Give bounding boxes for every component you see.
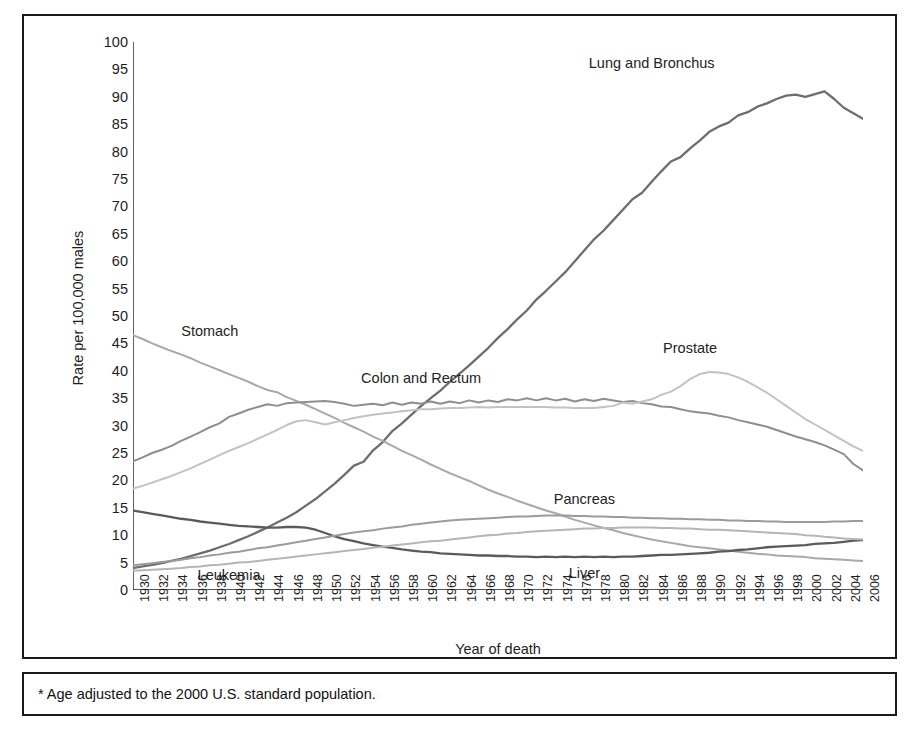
x-tick-label: 1968 bbox=[503, 574, 517, 602]
x-tick-label: 2000 bbox=[810, 574, 824, 602]
y-axis-tick-labels: 1009590858075706560555045403530252015105… bbox=[88, 42, 128, 590]
x-tick-label: 1980 bbox=[618, 574, 632, 602]
series-label-stomach: Stomach bbox=[181, 323, 238, 339]
x-tick-label: 1996 bbox=[772, 574, 786, 602]
y-tick-label: 70 bbox=[88, 198, 128, 214]
series-line-lung-and-bronchus bbox=[133, 91, 863, 568]
x-tick-label: 2006 bbox=[868, 574, 882, 602]
x-tick-label: 1940 bbox=[234, 574, 248, 602]
x-tick-label: 1944 bbox=[272, 574, 286, 602]
x-tick-label: 1956 bbox=[388, 574, 402, 602]
x-tick-label: 1976 bbox=[580, 574, 594, 602]
y-tick-label: 15 bbox=[88, 500, 128, 516]
y-axis-title: Rate per 100,000 males bbox=[70, 118, 86, 498]
y-tick-label: 95 bbox=[88, 61, 128, 77]
y-tick-label: 80 bbox=[88, 144, 128, 160]
footnote-frame: * Age adjusted to the 2000 U.S. standard… bbox=[22, 672, 897, 716]
y-tick-label: 60 bbox=[88, 253, 128, 269]
y-tick-label: 65 bbox=[88, 226, 128, 242]
x-tick-label: 1930 bbox=[138, 574, 152, 602]
y-tick-label: 45 bbox=[88, 335, 128, 351]
x-tick-label: 1974 bbox=[561, 574, 575, 602]
x-tick-label: 1988 bbox=[695, 574, 709, 602]
x-tick-label: 1984 bbox=[657, 574, 671, 602]
footnote-text: * Age adjusted to the 2000 U.S. standard… bbox=[38, 686, 376, 702]
x-tick-label: 1942 bbox=[253, 574, 267, 602]
axis-lines bbox=[133, 42, 863, 590]
x-tick-label: 1990 bbox=[714, 574, 728, 602]
x-tick-label: 1958 bbox=[407, 574, 421, 602]
y-tick-label: 75 bbox=[88, 171, 128, 187]
y-tick-label: 25 bbox=[88, 445, 128, 461]
series-line-colon-and-rectum bbox=[133, 398, 863, 470]
figure-root: Rate per 100,000 males 10095908580757065… bbox=[0, 0, 923, 747]
y-tick-label: 85 bbox=[88, 116, 128, 132]
x-tick-label: 1934 bbox=[176, 574, 190, 602]
x-tick-label: 1970 bbox=[522, 574, 536, 602]
y-tick-label: 10 bbox=[88, 527, 128, 543]
x-tick-label: 1982 bbox=[637, 574, 651, 602]
x-tick-label: 2002 bbox=[830, 574, 844, 602]
x-tick-label: 1998 bbox=[791, 574, 805, 602]
series-label-lung-and-bronchus: Lung and Bronchus bbox=[589, 55, 715, 71]
plot-svg bbox=[133, 42, 863, 590]
y-tick-label: 20 bbox=[88, 472, 128, 488]
x-tick-label: 1962 bbox=[445, 574, 459, 602]
y-tick-label: 100 bbox=[88, 34, 128, 50]
x-tick-label: 1936 bbox=[196, 574, 210, 602]
y-tick-label: 40 bbox=[88, 363, 128, 379]
x-tick-label: 1932 bbox=[157, 574, 171, 602]
x-tick-label: 1952 bbox=[349, 574, 363, 602]
x-tick-label: 1964 bbox=[465, 574, 479, 602]
x-tick-label: 1948 bbox=[311, 574, 325, 602]
y-tick-label: 5 bbox=[88, 555, 128, 571]
y-tick-label: 55 bbox=[88, 281, 128, 297]
y-tick-label: 30 bbox=[88, 418, 128, 434]
series-line-prostate bbox=[133, 372, 863, 489]
plot-area: Lung and BronchusStomachColon and Rectum… bbox=[133, 42, 863, 590]
x-tick-label: 1986 bbox=[676, 574, 690, 602]
y-axis-title-container: Rate per 100,000 males bbox=[56, 42, 76, 590]
y-tick-label: 90 bbox=[88, 89, 128, 105]
x-axis-title: Year of death bbox=[133, 641, 863, 657]
y-tick-label: 50 bbox=[88, 308, 128, 324]
x-tick-label: 1938 bbox=[215, 574, 229, 602]
series-line-pancreas bbox=[133, 515, 863, 565]
x-tick-label: 1994 bbox=[753, 574, 767, 602]
x-tick-label: 1972 bbox=[541, 574, 555, 602]
x-tick-label: 1954 bbox=[369, 574, 383, 602]
y-tick-label: 35 bbox=[88, 390, 128, 406]
x-tick-label: 1950 bbox=[330, 574, 344, 602]
x-tick-label: 1960 bbox=[426, 574, 440, 602]
x-tick-label: 1946 bbox=[292, 574, 306, 602]
x-tick-label: 1966 bbox=[484, 574, 498, 602]
x-tick-label: 1978 bbox=[599, 574, 613, 602]
series-label-colon-and-rectum: Colon and Rectum bbox=[361, 370, 481, 386]
x-tick-label: 2004 bbox=[849, 574, 863, 602]
y-tick-label: 0 bbox=[88, 582, 128, 598]
x-tick-label: 1992 bbox=[734, 574, 748, 602]
series-label-pancreas: Pancreas bbox=[554, 491, 615, 507]
series-label-prostate: Prostate bbox=[663, 340, 717, 356]
